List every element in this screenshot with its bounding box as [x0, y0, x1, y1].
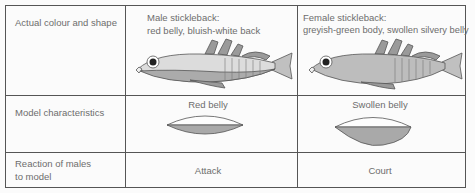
- row-label-reaction-2: to model: [15, 170, 51, 183]
- female-title: Female stickleback:: [303, 11, 386, 24]
- male-model-label: Red belly: [150, 98, 266, 111]
- male-reaction: Attack: [150, 164, 266, 177]
- row-divider-1: [6, 95, 465, 96]
- column-divider-1: [125, 6, 126, 187]
- female-reaction: Court: [320, 164, 440, 177]
- female-model-label: Swollen belly: [320, 98, 440, 111]
- row-label-model: Model characteristics: [15, 106, 104, 119]
- female-fish-icon: [303, 36, 468, 92]
- male-fish-icon: [130, 36, 295, 92]
- row-divider-2: [6, 152, 465, 153]
- row-label-actual: Actual colour and shape: [15, 16, 117, 29]
- male-title: Male stickleback:: [147, 11, 219, 24]
- row-label-reaction-1: Reaction of males: [15, 157, 91, 170]
- red-belly-model-icon: [165, 113, 245, 139]
- swollen-belly-model-icon: [333, 115, 413, 149]
- column-divider-2: [297, 6, 298, 187]
